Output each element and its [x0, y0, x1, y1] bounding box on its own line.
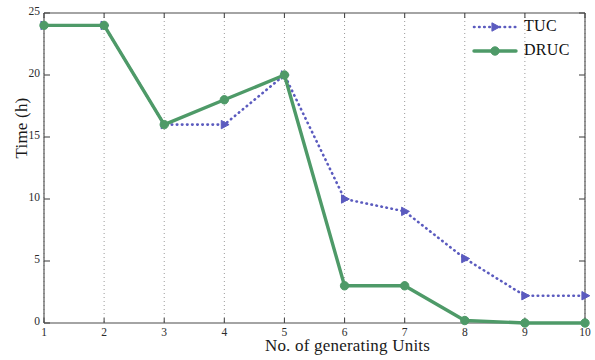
data-point-marker: [340, 282, 348, 290]
data-point-marker: [402, 207, 410, 215]
y-tick-label: 25: [22, 5, 40, 17]
x-tick-label: 6: [335, 326, 355, 338]
chart-figure: Time (h) No. of generating Units 0510152…: [0, 0, 595, 360]
data-point-marker: [160, 120, 168, 128]
x-tick-label: 2: [94, 326, 114, 338]
legend-entry-tuc: [474, 23, 516, 31]
x-tick-label: 1: [34, 326, 54, 338]
y-axis-title: Time (h): [12, 68, 32, 188]
data-point-marker: [522, 292, 530, 300]
y-tick-label: 10: [22, 191, 40, 203]
x-tick-label: 7: [395, 326, 415, 338]
plot-area: [0, 0, 595, 360]
data-point-marker: [100, 21, 108, 29]
x-tick-label: 10: [575, 326, 595, 338]
y-tick-label: 20: [22, 67, 40, 79]
data-point-marker: [341, 195, 349, 203]
x-tick-label: 8: [455, 326, 475, 338]
x-tick-label: 9: [515, 326, 535, 338]
x-axis-title: No. of generating Units: [0, 336, 595, 356]
data-point-marker: [461, 316, 469, 324]
series-line: [44, 25, 585, 323]
series-tuc: [41, 21, 590, 300]
x-tick-label: 5: [274, 326, 294, 338]
series-line: [44, 25, 585, 295]
legend-label-druc: DRUC: [524, 41, 570, 59]
legend-group: [474, 23, 516, 55]
data-point-marker: [40, 21, 48, 29]
y-axis-title-text: Time (h): [12, 98, 31, 159]
series-group: [40, 21, 590, 327]
legend-entry-druc: [474, 47, 516, 55]
data-point-marker: [491, 47, 499, 55]
data-point-marker: [582, 292, 590, 300]
data-point-marker: [400, 282, 408, 290]
data-point-marker: [220, 96, 228, 104]
legend-label-tuc: TUC: [524, 17, 557, 35]
y-tick-label: 15: [22, 129, 40, 141]
data-point-marker: [280, 71, 288, 79]
y-tick-label: 5: [22, 253, 40, 265]
series-druc: [40, 21, 589, 327]
data-point-marker: [492, 23, 500, 31]
x-tick-label: 4: [214, 326, 234, 338]
data-point-marker: [462, 254, 470, 262]
x-axis-title-text: No. of generating Units: [265, 336, 430, 355]
x-tick-label: 3: [154, 326, 174, 338]
